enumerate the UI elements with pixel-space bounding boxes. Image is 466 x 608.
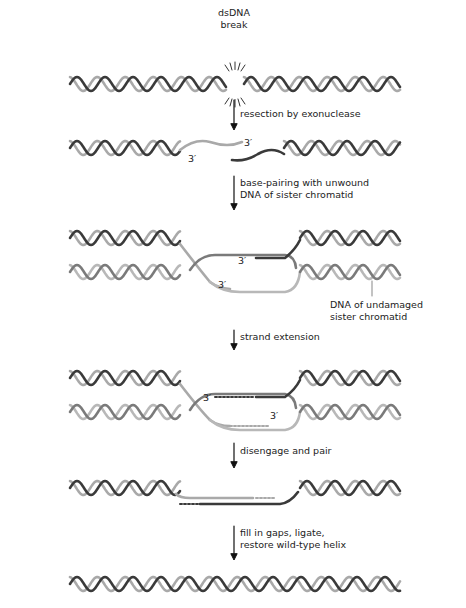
step-5-line1: fill in gaps, ligate, bbox=[240, 527, 346, 539]
arrow-head-icon bbox=[231, 124, 237, 130]
arrow-head-icon bbox=[231, 344, 237, 350]
row4-invading-light bbox=[180, 384, 230, 426]
step-5-line2: restore wild-type helix bbox=[240, 539, 346, 551]
row2-overhang-dark bbox=[232, 150, 284, 160]
step-2-line2: DNA of sister chromatid bbox=[240, 189, 369, 201]
break-spark-icon bbox=[230, 63, 232, 70]
sister-chromatid-callout: DNA of undamaged sister chromatid bbox=[330, 299, 423, 322]
break-spark-icon bbox=[230, 99, 232, 106]
row2-right-helix-dark-strand bbox=[284, 141, 400, 155]
row4-sister-loop-bottom bbox=[210, 412, 300, 430]
row3-bottom-right-helix-dark-strand bbox=[300, 265, 400, 279]
break-spark-icon bbox=[241, 98, 245, 104]
row2-overhang-light bbox=[180, 141, 242, 150]
step-3-label: strand extension bbox=[240, 331, 320, 343]
arrow-head-icon bbox=[231, 554, 237, 560]
arrow-head-icon bbox=[231, 462, 237, 468]
break-spark-icon bbox=[241, 65, 245, 71]
break-label: dsDNA break bbox=[214, 7, 254, 30]
step-4-label: disengage and pair bbox=[240, 445, 332, 457]
three-prime-label: 3′ bbox=[238, 255, 246, 266]
row4-top-right-helix-dark-strand bbox=[300, 371, 400, 385]
step-3-line1: strand extension bbox=[240, 331, 320, 343]
row5-light-strand bbox=[176, 494, 253, 498]
callout-line1: DNA of undamaged bbox=[330, 299, 423, 311]
break-spark-icon bbox=[238, 99, 240, 106]
break-spark-icon bbox=[238, 63, 240, 70]
step-2-line1: base-pairing with unwound bbox=[240, 177, 369, 189]
three-prime-label: 3′ bbox=[244, 137, 252, 148]
break-label-line1: dsDNA bbox=[214, 7, 254, 19]
break-spark-icon bbox=[225, 98, 229, 104]
three-prime-label: 3′ bbox=[218, 279, 226, 290]
step-1-line1: resection by exonuclease bbox=[240, 108, 361, 120]
three-prime-label: 3′ bbox=[203, 392, 211, 403]
step-4-line1: disengage and pair bbox=[240, 445, 332, 457]
three-prime-label: 3′ bbox=[270, 410, 278, 421]
row3-top-right-helix-dark-strand bbox=[300, 231, 400, 245]
row4-bottom-right-helix-dark-strand bbox=[300, 405, 400, 419]
step-5-label: fill in gaps, ligate, restore wild-type … bbox=[240, 527, 346, 550]
step-2-label: base-pairing with unwound DNA of sister … bbox=[240, 177, 369, 200]
three-prime-label: 3′ bbox=[188, 153, 196, 164]
step-1-label: resection by exonuclease bbox=[240, 108, 361, 120]
row5-right-helix-dark-strand bbox=[300, 481, 400, 495]
callout-line2: sister chromatid bbox=[330, 311, 423, 323]
break-spark-icon bbox=[225, 65, 229, 71]
arrow-head-icon bbox=[231, 204, 237, 210]
break-label-line2: break bbox=[214, 19, 254, 31]
